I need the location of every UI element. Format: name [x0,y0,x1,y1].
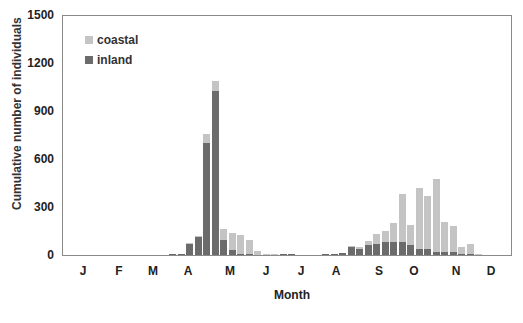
bar-week-31 [322,254,329,255]
bar-segment-inland [178,254,185,255]
x-tick-may: M [220,264,240,278]
bar-segment-inland [407,245,414,255]
bar-week-24 [263,254,270,255]
bar-segment-coastal [450,226,457,251]
bar-segment-coastal [203,134,210,144]
bar-week-19 [220,229,227,255]
x-tick-nov: N [446,264,466,278]
bar-segment-coastal [390,223,397,242]
bar-segment-coastal [246,240,253,254]
bar-segment-coastal [441,222,448,252]
bar-week-33 [339,253,346,255]
y-tick-0: 0 [14,248,54,262]
bar-segment-coastal [348,246,355,247]
bar-week-14 [178,254,185,255]
y-axis-label: Cumulative number of individuals [10,60,24,210]
bar-week-15 [186,243,193,255]
bar-week-39 [390,223,397,255]
bar-segment-inland [365,245,372,255]
bar-week-20 [229,233,236,255]
y-tick-1200: 1200 [14,56,54,70]
bar-week-48 [467,244,474,255]
bar-week-22 [246,240,253,255]
bar-segment-coastal [365,241,372,246]
bar-segment-coastal [467,244,474,254]
bar-week-43 [424,196,431,255]
bar-segment-inland [322,254,329,255]
bar-week-26 [280,254,287,255]
bar-segment-inland [229,250,236,255]
bar-week-18 [212,81,219,255]
bar-segment-coastal [237,235,244,254]
bar-week-34 [348,246,355,255]
bar-week-46 [450,226,457,255]
bar-segment-inland [169,254,176,255]
bar-week-21 [237,235,244,255]
stacked-bar-chart: Cumulative number of individuals 1500 12… [0,0,523,323]
bar-segment-coastal [407,225,414,246]
x-tick-jul: J [291,264,311,278]
x-tick-oct: O [404,264,424,278]
bar-segment-coastal [399,194,406,242]
bar-week-32 [331,254,338,255]
bar-segment-coastal [195,236,202,238]
bar-week-45 [441,222,448,255]
x-tick-jun: J [256,264,276,278]
bar-week-16 [195,236,202,255]
bar-week-25 [271,254,278,255]
bar-segment-coastal [475,254,482,255]
bar-segment-coastal [356,247,363,249]
x-tick-dec: D [481,264,501,278]
bar-segment-coastal [382,231,389,242]
bar-week-42 [416,188,423,255]
bar-segment-inland [195,237,202,255]
bar-segment-inland [203,143,210,255]
bar-week-17 [203,134,210,255]
bar-week-13 [169,254,176,255]
bars-container [63,16,511,255]
bar-segment-inland [237,254,244,255]
bar-segment-inland [373,244,380,255]
y-tick-900: 900 [14,104,54,118]
bar-segment-inland [246,254,253,255]
bar-segment-inland [331,254,338,255]
bar-week-49 [475,254,482,255]
bar-segment-inland [458,254,465,255]
bar-week-23 [254,251,261,255]
bar-segment-coastal [263,254,270,255]
bar-segment-inland [220,240,227,255]
bar-week-41 [407,225,414,255]
bar-segment-coastal [212,81,219,91]
bar-segment-inland [186,244,193,255]
x-axis-label: Month [262,288,322,302]
bar-segment-inland [441,252,448,255]
bar-segment-inland [348,247,355,255]
bar-week-36 [365,241,372,255]
bar-week-47 [458,247,465,255]
y-tick-600: 600 [14,152,54,166]
bar-segment-inland [382,242,389,255]
bar-segment-coastal [424,196,431,249]
y-tick-300: 300 [14,200,54,214]
bar-segment-inland [356,249,363,255]
bar-segment-coastal [373,234,380,244]
x-tick-apr: A [178,264,198,278]
bar-segment-inland [433,252,440,255]
y-tick-1500: 1500 [14,8,54,22]
x-tick-jan: J [73,264,93,278]
bar-segment-coastal [433,179,440,252]
bar-week-37 [373,234,380,255]
x-tick-sep: S [369,264,389,278]
bar-segment-inland [212,91,219,255]
bar-segment-coastal [458,247,465,254]
bar-segment-inland [390,242,397,255]
bar-segment-inland [416,249,423,255]
bar-segment-inland [424,249,431,255]
bar-week-40 [399,194,406,255]
x-tick-mar: M [143,264,163,278]
bar-week-27 [288,254,295,255]
bar-segment-coastal [416,188,423,249]
bar-segment-inland [467,254,474,255]
bar-segment-coastal [229,233,236,251]
x-tick-feb: F [109,264,129,278]
